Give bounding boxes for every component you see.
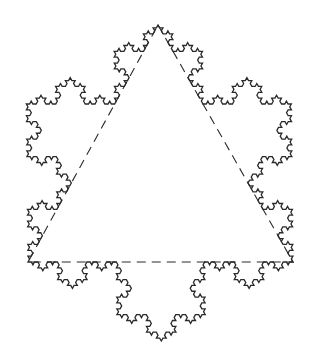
koch-snowflake-figure: [0, 0, 319, 358]
diagram-canvas: Koch snowflake with inscribed triangle: [0, 0, 319, 358]
dashed-triangle: [28, 25, 293, 262]
koch-snowflake-curve: [26, 25, 293, 341]
